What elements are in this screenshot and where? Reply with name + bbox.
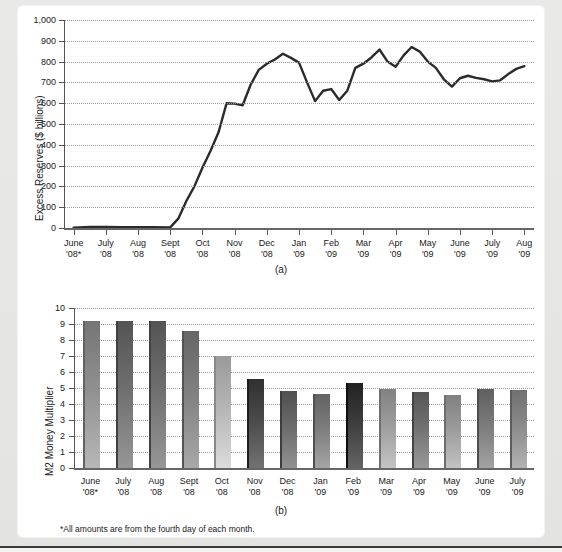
chart-b-gridline [74, 404, 534, 405]
chart-b-y-tick-label: 9 [18, 319, 65, 329]
bar-chart-m2-money-multiplier: M2 Money Multiplier (b) *All amounts are… [18, 296, 544, 536]
chart-b-bar [510, 390, 527, 468]
chart-a-y-axis-line [64, 20, 65, 228]
chart-a-y-tick-label: 500 [18, 119, 56, 129]
chart-a-gridline [64, 41, 534, 42]
chart-a-y-tick-label: 200 [18, 181, 56, 191]
chart-a-x-tick [170, 230, 171, 235]
chart-b-y-axis-line [74, 308, 75, 468]
chart-b-gridline [74, 420, 534, 421]
chart-a-y-tick-label: 700 [18, 77, 56, 87]
chart-a-y-tick-label: 300 [18, 161, 56, 171]
chart-b-gridline [74, 356, 534, 357]
chart-a-x-tick [267, 230, 268, 235]
chart-b-y-tick-label: 10 [18, 303, 65, 313]
chart-b-bar [116, 321, 133, 468]
chart-b-y-tick-label: 7 [18, 351, 65, 361]
chart-b-gridline [74, 372, 534, 373]
chart-b-panel-letter: (b) [18, 505, 544, 516]
chart-b-bar [346, 383, 363, 468]
chart-a-x-tick [428, 230, 429, 235]
chart-a-x-tick [363, 230, 364, 235]
chart-b-y-tick-label: 3 [18, 415, 65, 425]
chart-a-x-tick [235, 230, 236, 235]
chart-a-y-tick-label: 100 [18, 202, 56, 212]
chart-a-x-tick-label: Aug'09 [498, 238, 550, 260]
chart-a-y-tick-label: 600 [18, 98, 56, 108]
chart-b-bar [313, 394, 330, 468]
chart-a-gridline [64, 124, 534, 125]
chart-b-bar [149, 321, 166, 468]
chart-a-x-tick [138, 230, 139, 235]
page-background: Excess Reserves ($ billions) (a) 0100200… [0, 0, 562, 552]
chart-a-panel-letter: (a) [18, 264, 544, 275]
chart-a-x-tick [524, 230, 525, 235]
chart-b-bar [214, 356, 231, 468]
chart-b-gridline [74, 340, 534, 341]
chart-a-y-tick-label: 800 [18, 57, 56, 67]
chart-b-gridline [74, 388, 534, 389]
chart-a-y-tick-label: 0 [18, 223, 56, 233]
chart-b-y-tick-label: 8 [18, 335, 65, 345]
chart-b-bar [379, 389, 396, 468]
chart-b-y-tick-label: 4 [18, 399, 65, 409]
chart-a-gridline [64, 207, 534, 208]
chart-a-x-tick [106, 230, 107, 235]
chart-a-gridline [64, 166, 534, 167]
chart-b-bar [444, 395, 461, 468]
page-bottom-margin [0, 548, 562, 552]
chart-b-y-tick-label: 1 [18, 447, 65, 457]
chart-a-gridline [64, 82, 534, 83]
chart-a-x-tick [492, 230, 493, 235]
chart-b-bar [412, 392, 429, 468]
chart-a-gridline [64, 20, 534, 21]
chart-b-bar [247, 379, 264, 468]
chart-b-bar [477, 389, 494, 468]
chart-b-bar [280, 391, 297, 468]
chart-b-y-tick-label: 2 [18, 431, 65, 441]
chart-b-y-tick-label: 0 [18, 463, 65, 473]
chart-a-x-tick [299, 230, 300, 235]
chart-a-y-tick-label: 900 [18, 36, 56, 46]
chart-a-gridline [64, 186, 534, 187]
chart-a-x-tick [396, 230, 397, 235]
chart-b-bar [83, 321, 100, 468]
chart-b-gridline [74, 308, 534, 309]
chart-b-gridline [74, 452, 534, 453]
chart-a-gridline [64, 62, 534, 63]
chart-a-x-tick [202, 230, 203, 235]
figure-card: Excess Reserves ($ billions) (a) 0100200… [18, 6, 544, 537]
chart-a-x-tick [460, 230, 461, 235]
chart-b-y-tick-label: 5 [18, 383, 65, 393]
chart-b-bar [182, 331, 199, 468]
chart-b-x-tick-label: July'09 [492, 476, 544, 498]
chart-a-gridline [64, 145, 534, 146]
chart-a-y-tick-label: 400 [18, 140, 56, 150]
chart-a-y-tick-label: 1,000 [18, 15, 56, 25]
chart-a-gridline [64, 103, 534, 104]
chart-b-x-axis-line [74, 468, 534, 470]
chart-b-gridline [74, 324, 534, 325]
line-chart-excess-reserves: Excess Reserves ($ billions) (a) 0100200… [18, 6, 544, 281]
chart-b-y-tick-label: 6 [18, 367, 65, 377]
chart-a-x-tick [331, 230, 332, 235]
chart-a-x-tick [74, 230, 75, 235]
chart-b-gridline [74, 436, 534, 437]
figure-footnote: *All amounts are from the fourth day of … [60, 524, 255, 534]
